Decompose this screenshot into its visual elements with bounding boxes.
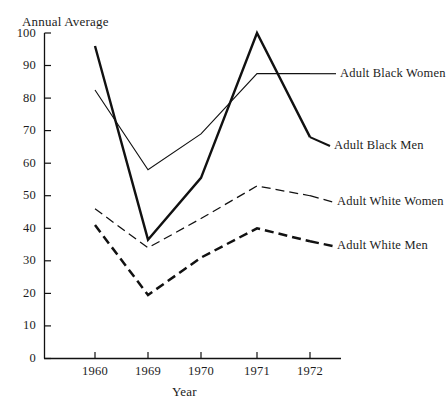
y-tick-label-20: 20 <box>4 286 36 301</box>
x-tick-label-1969: 1969 <box>125 364 171 379</box>
series-label-adult-white-men: Adult White Men <box>337 238 428 253</box>
y-tick-label-50: 50 <box>4 188 36 203</box>
series-line-adult-white-men <box>95 225 310 295</box>
leader-line-adult-black-men <box>310 137 330 146</box>
y-tick-label-30: 30 <box>4 253 36 268</box>
series-line-adult-black-men <box>95 33 310 240</box>
y-tick-label-0: 0 <box>4 351 36 366</box>
y-tick-label-10: 10 <box>4 318 36 333</box>
y-tick-label-60: 60 <box>4 156 36 171</box>
series-label-adult-white-women: Adult White Women <box>337 194 444 209</box>
x-axis-ticks <box>95 352 310 359</box>
x-tick-label-1960: 1960 <box>72 364 118 379</box>
y-tick-label-100: 100 <box>4 26 36 41</box>
series-line-adult-white-women <box>95 186 310 248</box>
line-chart: Annual Average 100 90 80 70 60 50 40 30 … <box>0 0 446 408</box>
x-tick-label-1972: 1972 <box>287 364 333 379</box>
x-tick-label-1971: 1971 <box>234 364 280 379</box>
y-tick-label-40: 40 <box>4 221 36 236</box>
series-label-adult-black-women: Adult Black Women <box>340 66 446 81</box>
leader-line-adult-white-men <box>310 241 333 246</box>
x-axis-title: Year <box>172 384 197 400</box>
y-tick-label-90: 90 <box>4 58 36 73</box>
leader-line-adult-white-women <box>310 196 333 202</box>
x-tick-label-1970: 1970 <box>178 364 224 379</box>
y-axis-ticks <box>45 33 52 359</box>
series-label-adult-black-men: Adult Black Men <box>334 138 424 153</box>
y-tick-label-80: 80 <box>4 91 36 106</box>
series-line-adult-black-women <box>95 74 310 170</box>
y-tick-label-70: 70 <box>4 123 36 138</box>
